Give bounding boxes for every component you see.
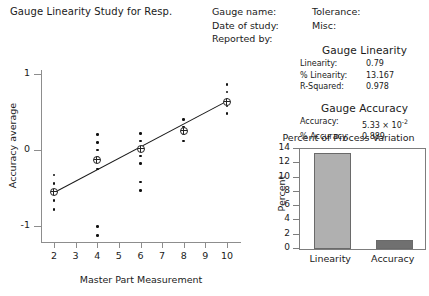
statistics-panel: Gauge Linearity Linearity: 0.79 % Linear… (300, 44, 429, 142)
gauge-linearity-heading: Gauge Linearity (300, 44, 429, 56)
scatter-plot-area (41, 70, 240, 240)
scatter-y-tick (34, 226, 41, 227)
bar-y-tick-label: 8 (266, 185, 290, 195)
stat-label: R-Squared: (300, 81, 358, 93)
scatter-data-point (53, 182, 56, 185)
scatter-x-tick-label: 7 (152, 250, 172, 261)
scatter-data-point (96, 225, 99, 228)
scatter-data-point (139, 140, 142, 143)
scatter-data-point (53, 174, 56, 177)
scatter-y-tick-label: 0 (0, 143, 30, 154)
stat-row: Accuracy: 5.33 × 10-2 (300, 116, 429, 131)
stat-row: % Linearity: 13.167 (300, 70, 429, 82)
gauge-linearity-report: Gauge Linearity Study for Resp. Gauge na… (0, 0, 429, 296)
scatter-y-tick (34, 150, 41, 151)
scatter-x-tick-label: 6 (131, 250, 151, 261)
bar-y-tick-label: 10 (266, 171, 290, 181)
bar-y-tick-label: 0 (266, 242, 290, 252)
stat-row: R-Squared: 0.978 (300, 81, 429, 93)
scatter-x-tick-label: 2 (44, 250, 64, 261)
stat-value: 13.167 (358, 70, 429, 82)
bar-y-tick-label: 14 (266, 142, 290, 152)
field-date-of-study: Date of study: (212, 19, 279, 33)
scatter-data-point (182, 118, 185, 121)
scatter-x-tick (227, 242, 228, 248)
scatter-data-point (139, 132, 142, 135)
scatter-mean-marker (137, 145, 145, 153)
bar-y-tick-label: 2 (266, 228, 290, 238)
bar-category-label: Accuracy (353, 253, 429, 264)
field-gauge-name: Gauge name: (212, 5, 279, 19)
field-tolerance: Tolerance: (312, 5, 361, 19)
scatter-data-point (53, 199, 56, 202)
scatter-x-tick-label: 8 (174, 250, 194, 261)
scatter-data-point (226, 91, 229, 94)
scatter-x-tick (184, 242, 185, 248)
field-reported-by: Reported by: (212, 32, 279, 46)
scatter-mean-marker (180, 127, 188, 135)
scatter-x-tick (76, 242, 77, 248)
scatter-x-tick-label: 5 (109, 250, 129, 261)
stat-value: 0.978 (358, 81, 429, 93)
scatter-data-point (96, 149, 99, 152)
scatter-x-tick (141, 242, 142, 248)
bar-accuracy (376, 240, 413, 249)
header-fields-right: Tolerance: Misc: (312, 5, 361, 32)
bar-y-tick-label: 12 (266, 156, 290, 166)
stat-label: Accuracy: (300, 116, 358, 131)
stat-value-exponent: -2 (402, 118, 408, 125)
scatter-x-tick-label: 9 (195, 250, 215, 261)
page-title: Gauge Linearity Study for Resp. (10, 6, 172, 17)
scatter-data-point (96, 141, 99, 144)
stat-value-mantissa: 5.33 × 10 (362, 120, 402, 129)
scatter-data-point (96, 234, 99, 237)
scatter-x-tick (54, 242, 55, 248)
bar-linearity (314, 153, 351, 249)
scatter-x-tick (119, 242, 120, 248)
scatter-data-point (226, 83, 229, 86)
gauge-accuracy-heading: Gauge Accuracy (300, 102, 429, 114)
scatter-data-point (139, 155, 142, 158)
scatter-x-tick-label: 3 (66, 250, 86, 261)
scatter-data-point (139, 189, 142, 192)
scatter-mean-marker (93, 156, 101, 164)
stat-value: 0.79 (358, 58, 429, 70)
scatter-x-tick (97, 242, 98, 248)
scatter-x-tick (162, 242, 163, 248)
field-misc: Misc: (312, 19, 361, 33)
scatter-y-tick-label: -1 (0, 219, 30, 230)
scatter-mean-marker (50, 188, 58, 196)
scatter-data-point (182, 140, 185, 143)
scatter-y-tick-label: 1 (0, 67, 30, 78)
bar-y-tick-label: 6 (266, 199, 290, 209)
scatter-mean-marker (223, 98, 231, 106)
scatter-x-tick-label: 4 (87, 250, 107, 261)
stat-label: % Linearity: (300, 70, 358, 82)
bar-chart-title: Percent of Process Variation (268, 132, 429, 143)
scatter-y-tick (34, 74, 41, 75)
scatter-data-point (139, 162, 142, 165)
scatter-data-point (96, 133, 99, 136)
bar-chart: Percent of Process Variation Percent 024… (268, 132, 429, 296)
scatter-data-point (53, 208, 56, 211)
scatter-x-tick-label: 10 (217, 250, 237, 261)
scatter-x-axis-label: Master Part Measurement (41, 274, 241, 285)
bar-y-tick-label: 4 (266, 213, 290, 223)
stat-label: Linearity: (300, 58, 358, 70)
scatter-x-tick (205, 242, 206, 248)
scatter-chart: Accuracy average Master Part Measurement… (0, 62, 262, 296)
stat-value: 5.33 × 10-2 (358, 116, 429, 131)
bar-plot-area (299, 148, 426, 250)
stat-row: Linearity: 0.79 (300, 58, 429, 70)
header-fields-left: Gauge name: Date of study: Reported by: (212, 5, 279, 46)
scatter-data-point (226, 112, 229, 115)
scatter-data-point (139, 181, 142, 184)
